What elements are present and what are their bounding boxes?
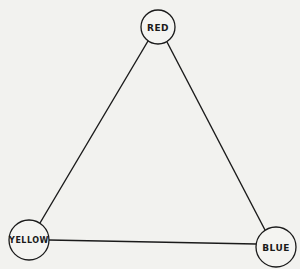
node-red-label: RED xyxy=(147,23,169,33)
node-yellow: YELLOW xyxy=(8,220,49,260)
node-blue-label: BLUE xyxy=(262,243,290,253)
diagram-canvas: RED YELLOW BLUE xyxy=(0,0,300,269)
node-yellow-label: YELLOW xyxy=(8,236,49,245)
edge-yellow-blue xyxy=(49,240,256,244)
node-red: RED xyxy=(141,10,175,44)
edge-red-yellow xyxy=(40,41,148,223)
edge-red-blue xyxy=(167,42,265,230)
triangle-diagram: RED YELLOW BLUE xyxy=(0,0,300,269)
node-blue: BLUE xyxy=(256,227,296,267)
